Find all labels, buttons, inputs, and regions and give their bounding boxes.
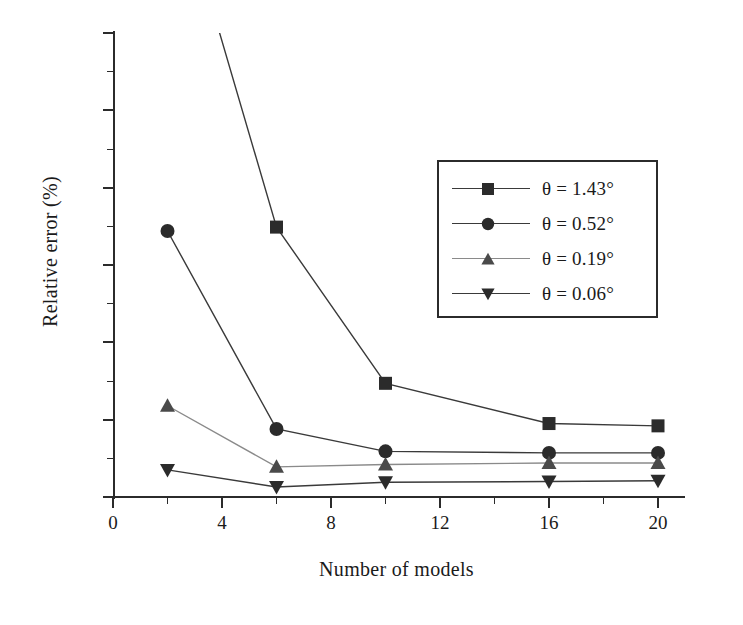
square-marker-icon (270, 221, 283, 234)
y-axis-line (113, 31, 115, 499)
x-tick-major (221, 498, 223, 508)
triangle-down-marker-icon (160, 464, 175, 478)
legend-item[interactable]: θ = 0.19° (439, 241, 656, 276)
x-tick-major (112, 498, 114, 508)
x-tick-major (439, 498, 441, 508)
x-tick-minor (385, 498, 386, 504)
circle-marker-icon (270, 422, 284, 436)
square-marker-icon (379, 377, 392, 390)
y-tick-major (103, 187, 113, 189)
x-tick-label: 8 (301, 512, 361, 534)
legend-label: θ = 0.06° (542, 283, 614, 305)
x-tick-label: 20 (628, 512, 688, 534)
x-axis-line (112, 496, 685, 498)
y-tick-major (103, 109, 113, 111)
x-tick-minor (167, 498, 168, 504)
circle-marker-icon (452, 214, 530, 234)
circle-marker-icon (161, 224, 175, 238)
legend-label: θ = 0.52° (542, 213, 614, 235)
legend-item[interactable]: θ = 1.43° (439, 171, 656, 206)
triangle-down-marker-icon (378, 476, 393, 490)
triangle-up-marker-icon (452, 249, 530, 269)
legend-item[interactable]: θ = 0.06° (439, 276, 656, 311)
x-tick-label: 4 (192, 512, 252, 534)
triangle-down-marker-icon (542, 476, 557, 490)
x-tick-major (657, 498, 659, 508)
chart-figure: 051015202530048121620 Number of models R… (0, 0, 743, 625)
triangle-down-marker-icon (452, 284, 530, 304)
y-tick-major (103, 32, 113, 34)
x-tick-minor (276, 498, 277, 504)
triangle-up-marker-icon (160, 398, 175, 412)
circle-marker-icon (379, 444, 393, 458)
triangle-up-marker-icon (269, 459, 284, 473)
triangle-up-marker-icon (651, 455, 666, 469)
triangle-down-marker-icon (269, 481, 284, 495)
triangle-up-marker-icon (542, 455, 557, 469)
square-marker-icon (652, 419, 665, 432)
y-axis-title: Relative error (%) (39, 52, 62, 452)
y-tick-minor (107, 303, 113, 304)
x-axis-title: Number of models (113, 558, 680, 581)
y-tick-minor (107, 381, 113, 382)
x-tick-minor (494, 498, 495, 504)
y-tick-major (103, 419, 113, 421)
legend-label: θ = 1.43° (542, 178, 614, 200)
y-tick-minor (107, 149, 113, 150)
x-tick-label: 0 (83, 512, 143, 534)
legend-box: θ = 1.43° θ = 0.52° θ = 0.19° θ = 0.06° (437, 160, 658, 318)
x-tick-minor (603, 498, 604, 504)
circle-marker-icon (651, 446, 665, 460)
triangle-up-marker-icon (378, 457, 393, 471)
series-line (168, 470, 659, 487)
square-marker-icon (543, 417, 556, 430)
square-marker-icon (452, 179, 530, 199)
y-tick-major (103, 341, 113, 343)
y-tick-major (103, 264, 113, 266)
x-tick-label: 12 (410, 512, 470, 534)
y-tick-minor (107, 226, 113, 227)
triangle-down-marker-icon (651, 475, 666, 489)
y-tick-minor (107, 71, 113, 72)
circle-marker-icon (542, 446, 556, 460)
x-tick-major (548, 498, 550, 508)
y-tick-minor (107, 458, 113, 459)
series-line (168, 406, 659, 467)
legend-item[interactable]: θ = 0.52° (439, 206, 656, 241)
x-tick-major (330, 498, 332, 508)
legend-label: θ = 0.19° (542, 248, 614, 270)
x-tick-label: 16 (519, 512, 579, 534)
